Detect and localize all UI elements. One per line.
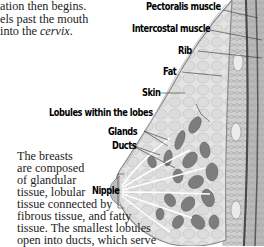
label-lobules: Lobules within the lobes: [49, 107, 153, 118]
intro-paragraph: ation then begins. els past the mouth in…: [0, 0, 88, 38]
label-pectoralis-muscle: Pectoralis muscle: [146, 1, 221, 12]
breast-body: [115, 0, 232, 246]
label-fat: Fat: [163, 66, 176, 77]
cervix-term: cervix: [40, 24, 70, 38]
label-skin: Skin: [142, 87, 160, 98]
label-intercostal-muscle: Intercostal muscle: [132, 23, 210, 34]
intro-line: into the cervix.: [0, 25, 88, 38]
label-rib: Rib: [178, 45, 192, 56]
caption-line: open into ducts, which serve: [17, 234, 156, 247]
label-nipple: Nipple: [92, 185, 119, 196]
intro-line: ation then begins.: [0, 0, 88, 13]
label-ducts: Ducts: [112, 140, 136, 151]
label-glands: Glands: [108, 126, 137, 137]
